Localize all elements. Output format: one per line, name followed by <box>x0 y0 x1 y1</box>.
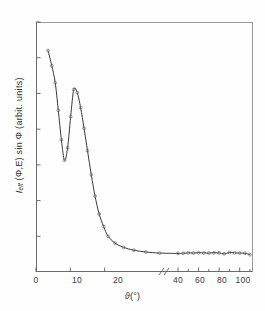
data-curve <box>48 51 250 255</box>
figure-panel: 14 12 10 8 6 4 2 0 10 20 40 60 80 100 Ie… <box>0 0 265 311</box>
chart-canvas <box>0 0 265 311</box>
axis-break-icon <box>159 268 169 275</box>
data-point-markers <box>47 49 252 256</box>
